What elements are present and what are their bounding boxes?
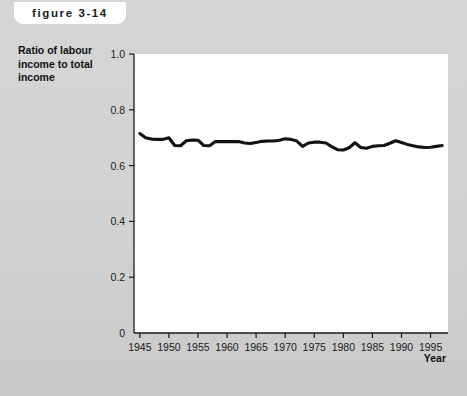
chart-plot-area: 00.20.40.60.81.0 19451950195519601965197… (0, 0, 467, 396)
y-axis-tick-label: 1.0 (110, 48, 125, 60)
x-axis-tick-label: 1960 (215, 341, 239, 353)
x-axis-tick-label: 1945 (128, 341, 152, 353)
x-axis-label: Year (424, 352, 446, 364)
x-axis-tick-label: 1980 (332, 341, 356, 353)
x-axis-tick-labels: 1945195019551960196519701975198019851990… (128, 341, 442, 353)
y-axis-tick-label: 0.2 (110, 271, 125, 283)
x-axis-ticks (140, 333, 431, 338)
y-axis-tick-label: 0.8 (110, 104, 125, 116)
x-axis-tick-label: 1970 (274, 341, 298, 353)
x-axis-tick-label: 1965 (244, 341, 268, 353)
y-axis-tick-label: 0.4 (110, 215, 125, 227)
plot-background (134, 54, 448, 333)
x-axis-tick-label: 1990 (390, 341, 414, 353)
x-axis-tick-label: 1950 (157, 341, 181, 353)
y-axis-ticks (129, 54, 134, 277)
x-axis-tick-label: 1955 (186, 341, 210, 353)
x-axis-tick-label: 1985 (361, 341, 385, 353)
y-axis-tick-label: 0 (119, 327, 125, 339)
y-axis-tick-label: 0.6 (110, 160, 125, 172)
y-axis-tick-labels: 00.20.40.60.81.0 (110, 48, 125, 339)
figure-container: figure 3-14 Ratio of labour income to to… (0, 0, 467, 396)
line-chart-svg: 00.20.40.60.81.0 19451950195519601965197… (0, 0, 467, 396)
x-axis-tick-label: 1975 (303, 341, 327, 353)
